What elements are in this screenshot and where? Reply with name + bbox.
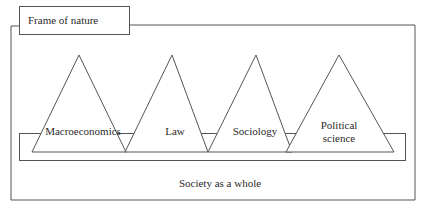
label-political: Political bbox=[306, 119, 372, 131]
label-law: Law bbox=[150, 125, 200, 137]
triangle-sociology bbox=[208, 55, 292, 152]
label-society-as-a-whole: Society as a whole bbox=[160, 177, 280, 189]
label-sociology: Sociology bbox=[225, 125, 285, 137]
label-macroeconomics: Macroeconomics bbox=[40, 125, 126, 137]
frame-of-nature-title: Frame of nature bbox=[19, 6, 130, 35]
triangle-law bbox=[125, 55, 208, 152]
triangle-macroeconomics bbox=[32, 55, 126, 152]
label-science: science bbox=[306, 132, 372, 144]
